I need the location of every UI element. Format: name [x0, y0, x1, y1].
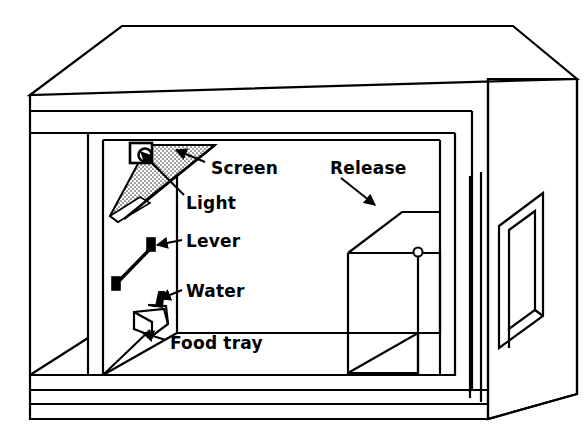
cabinet-outer-shell — [30, 26, 577, 419]
release-leader — [341, 178, 375, 205]
release-pivot-knob-icon — [414, 248, 423, 257]
cabinet-floor-perspective — [30, 338, 88, 375]
figure-container: Screen Light Lever Water Food tray Relea… — [0, 0, 585, 441]
cabinet-right-face — [488, 79, 577, 419]
side-window-frame — [499, 193, 543, 348]
label-layer: Screen Light Lever Water Food tray Relea… — [170, 158, 407, 353]
lever-paddle-lower — [112, 277, 120, 290]
release-unit-group — [348, 212, 440, 373]
food-tray-group — [134, 305, 168, 336]
release-floor-perspective — [348, 333, 440, 373]
cabinet-front-face — [30, 79, 577, 419]
label-screen: Screen — [211, 158, 278, 178]
label-food-tray: Food tray — [170, 333, 263, 353]
label-water: Water — [186, 281, 245, 301]
cabinet-top-face — [30, 26, 577, 95]
label-release: Release — [330, 158, 407, 178]
side-window-inner — [509, 211, 535, 329]
lever-paddle-upper — [147, 238, 155, 251]
release-right-edge — [418, 253, 440, 333]
side-window-recess-bottom — [535, 310, 543, 316]
label-lever: Lever — [186, 231, 241, 251]
release-ramp — [348, 212, 440, 253]
lever-group — [112, 238, 155, 290]
lever-leader — [157, 240, 182, 245]
operant-chamber-diagram: Screen Light Lever Water Food tray Relea… — [0, 0, 585, 441]
side-window-group — [470, 172, 543, 402]
release-front-face — [348, 253, 418, 373]
label-light: Light — [186, 193, 236, 213]
